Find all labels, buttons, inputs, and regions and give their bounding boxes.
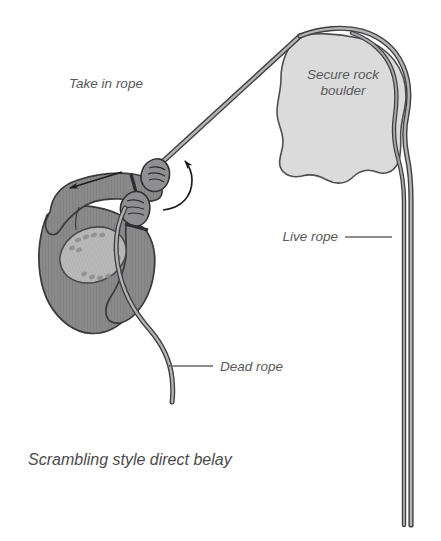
label-secure-rock-boulder-line1: Secure rock: [307, 67, 380, 82]
upper-hand: [141, 159, 170, 192]
figure-root: Take in rope Secure rock boulder Live ro…: [0, 0, 441, 541]
figure-caption: Scrambling style direct belay: [28, 451, 233, 468]
label-secure-rock-boulder-line2: boulder: [320, 83, 366, 98]
label-dead-rope: Dead rope: [220, 359, 283, 374]
label-take-in-rope: Take in rope: [69, 76, 143, 91]
scrambling-belay-illustration: Take in rope Secure rock boulder Live ro…: [0, 0, 441, 541]
belayer-figure: [39, 159, 170, 334]
label-live-rope: Live rope: [282, 229, 338, 244]
